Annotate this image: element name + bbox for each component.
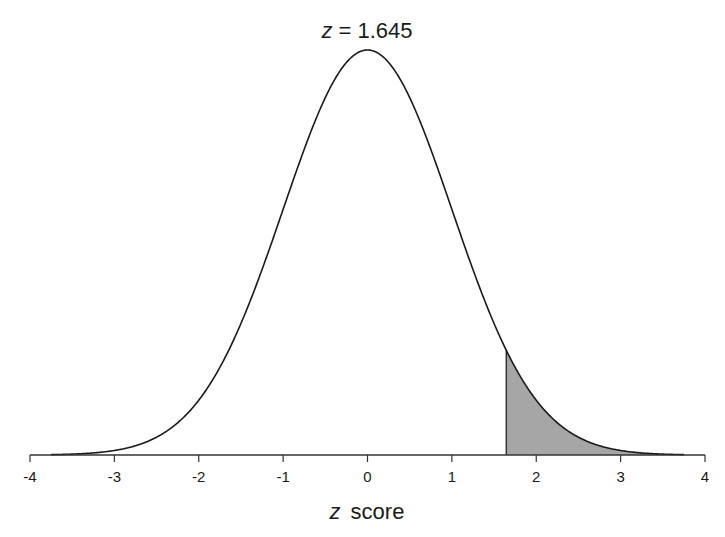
shaded-tail-region — [506, 350, 684, 455]
x-tick-label: 1 — [448, 468, 456, 485]
normal-distribution-chart: -4-3-2-101234 z= 1.645 zscore — [0, 0, 725, 537]
x-tick-label: 2 — [532, 468, 540, 485]
x-axis-ticks: -4-3-2-101234 — [23, 455, 709, 485]
x-axis-label: zscore — [329, 499, 405, 524]
x-tick-label: -3 — [108, 468, 121, 485]
normal-curve — [51, 50, 684, 455]
x-tick-label: -1 — [276, 468, 289, 485]
x-tick-label: -4 — [23, 468, 36, 485]
x-tick-label: 3 — [616, 468, 624, 485]
chart-title: z= 1.645 — [320, 18, 412, 43]
x-tick-label: 4 — [701, 468, 709, 485]
x-tick-label: 0 — [363, 468, 371, 485]
x-tick-label: -2 — [192, 468, 205, 485]
